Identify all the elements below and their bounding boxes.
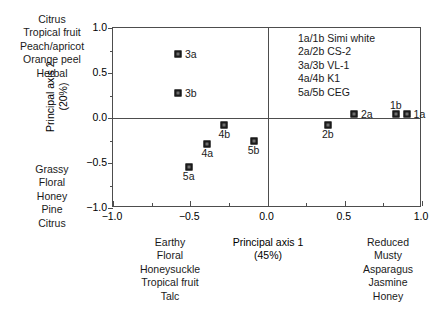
x-tick-label: 1.0 [414,210,429,222]
data-point-label: 2b [322,128,334,140]
zero-line-horizontal [113,118,420,119]
data-point-label: 4a [201,147,213,159]
y-tick-labels: −1.0−0.50.00.51.0 [64,27,107,207]
legend-entry: 1a/1b Simi white [298,32,375,45]
x-tick-label: 0.0 [259,210,274,222]
x-tick-label: 0.5 [336,210,351,222]
y-tick-major [108,28,113,29]
y-tick-major [108,163,113,164]
x-tick-labels: −1.0−0.50.00.51.0 [112,210,421,226]
annotation-line: Earthy [108,236,232,249]
y-tick-major [108,73,113,74]
x-tick-minor [383,203,384,206]
data-point-marker [351,111,358,118]
y-tick-minor [110,141,113,142]
x-tick-major [113,201,114,206]
data-point-label: 3b [185,87,197,99]
annotation-line: Jasmine [338,276,438,289]
y-tick-minor [110,186,113,187]
data-point-label: 3a [185,48,197,60]
x-tick-major [190,201,191,206]
data-point-label: 1a [414,108,426,120]
legend-entry: 3a/3b VL-1 [298,59,375,72]
x-tick-minor [229,203,230,206]
x-tick-major [345,201,346,206]
data-point-marker [174,51,181,58]
legend-entry: 2a/2b CS-2 [298,45,375,58]
annotation-line: Asparagus [338,263,438,276]
x-tick-minor [152,203,153,206]
annotation-bottom-center: EarthyFloralHoneysuckleTropical fruitTal… [108,236,232,303]
y-tick-label: 1.0 [92,21,107,33]
zero-line-vertical [268,28,269,206]
annotation-line: Honeysuckle [108,263,232,276]
legend: 1a/1b Simi white2a/2b CS-23a/3b VL-14a/4… [298,32,375,99]
data-point-label: 1b [390,99,402,111]
annotation-bottom-right: ReducedMustyAsparagusJasmineHoney [338,236,438,303]
x-tick-label: −0.5 [179,210,200,222]
y-tick-minor [110,96,113,97]
legend-entry: 5a/5b CEG [298,86,375,99]
data-point-label: 2a [361,108,373,120]
annotation-line: Citrus [4,217,100,230]
x-tick-minor [306,203,307,206]
data-point-label: 4b [218,128,230,140]
data-point-marker [403,111,410,118]
data-point-label: 5a [183,170,195,182]
y-tick-label: −0.5 [86,156,107,168]
chart-canvas: CitrusTropical fruitPeach/apricotOrange … [0,0,440,312]
annotation-line: Floral [108,249,232,262]
y-axis-title-line: Principal axis 2 [44,32,57,162]
y-tick-major [108,208,113,209]
legend-entry: 4a/4b K1 [298,72,375,85]
annotation-line: Tropical fruit [108,276,232,289]
x-tick-label: −1.0 [102,210,123,222]
y-tick-minor [110,51,113,52]
annotation-line: Talc [108,290,232,303]
y-tick-label: 0.5 [92,66,107,78]
annotation-line: Citrus [4,13,100,26]
y-tick-label: 0.0 [92,111,107,123]
x-tick-major [422,201,423,206]
annotation-line: Honey [338,290,438,303]
annotation-line: Reduced [338,236,438,249]
data-point-marker [392,111,399,118]
plot-area: 3a3b4b4a5b5a2a2b1b1a 1a/1b Simi white2a/… [112,27,421,207]
data-point-marker [174,89,181,96]
annotation-line: Musty [338,249,438,262]
data-point-label: 5b [248,144,260,156]
